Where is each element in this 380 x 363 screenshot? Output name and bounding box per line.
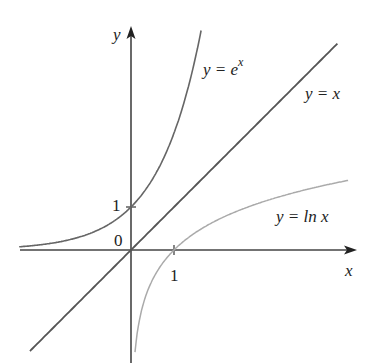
function-graph xyxy=(0,0,380,363)
origin-label: 0 xyxy=(114,232,123,249)
curve-exp xyxy=(19,31,201,247)
label-exp-main: y = e xyxy=(203,60,238,79)
label-exp-exponent: x xyxy=(238,55,243,69)
y-axis-label: y xyxy=(113,26,121,43)
curve-identity xyxy=(30,44,337,352)
label-exp: y = ex xyxy=(203,58,243,78)
label-ln: y = ln x xyxy=(276,208,329,225)
y-tick-label-1: 1 xyxy=(112,197,121,214)
x-tick-label-1: 1 xyxy=(170,267,179,284)
x-axis-label: x xyxy=(345,262,353,279)
label-identity: y = x xyxy=(305,85,340,102)
